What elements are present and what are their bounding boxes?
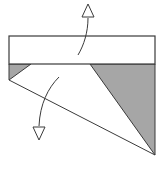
fold-down-arrow-icon: [33, 77, 59, 140]
left-shaded-flap: [9, 64, 31, 80]
origami-diagram: [0, 0, 161, 170]
right-shaded-flap: [90, 64, 155, 155]
top-band: [9, 36, 155, 64]
diagram-canvas: [0, 0, 161, 170]
